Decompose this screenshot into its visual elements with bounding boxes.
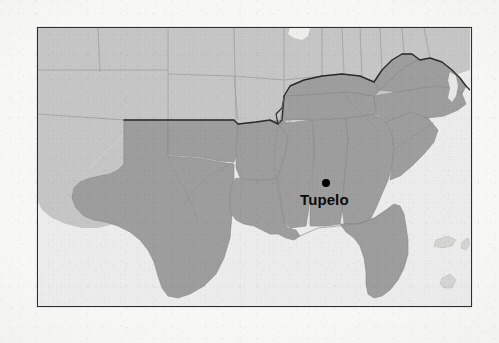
us-southeast-map [38, 28, 470, 305]
state-oklahoma [168, 120, 238, 162]
state-tennessee [282, 92, 376, 120]
city-marker-tupelo [322, 179, 330, 187]
city-label-tupelo: Tupelo [300, 191, 349, 208]
map-frame: Tupelo [37, 27, 472, 307]
map-page: Tupelo [0, 0, 499, 343]
